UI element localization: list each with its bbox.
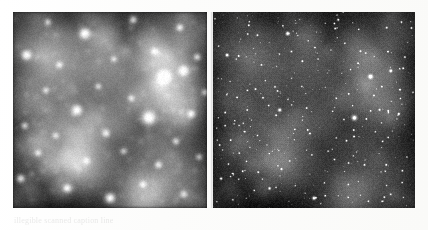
figure-root: illegible scanned caption line [0,0,428,230]
seeing-limited-image-panel [13,12,207,208]
right-starfield-canvas [213,12,415,208]
right-sky-field [213,12,415,208]
figure-caption-text: illegible scanned caption line [14,216,414,225]
figure-caption-strip: illegible scanned caption line [14,216,414,225]
left-sky-field [13,12,207,208]
left-starfield-canvas [13,12,207,208]
adaptive-optics-image-panel [213,12,415,208]
